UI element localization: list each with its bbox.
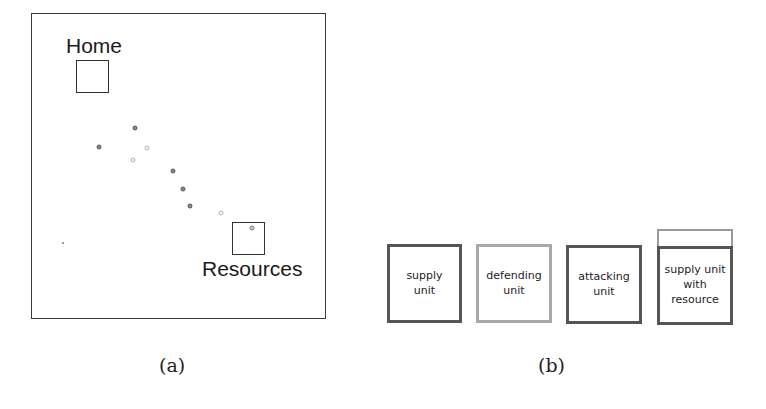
stray-speck (62, 242, 64, 244)
unit-dot (97, 145, 102, 150)
unit-dot (219, 211, 224, 216)
unit-dot (171, 169, 176, 174)
legend-defending-unit: defendingunit (476, 244, 552, 323)
resources-label: Resources (202, 258, 302, 279)
legend-supply-unit-with-resource: supply unitwithresource (657, 246, 733, 325)
legend-attacking-unit: attackingunit (566, 245, 642, 324)
unit-dot (181, 187, 186, 192)
caption-a: (a) (159, 356, 185, 375)
unit-dot (133, 126, 138, 131)
resources-box (232, 222, 265, 255)
home-label: Home (66, 35, 122, 56)
legend-label-attacking: attackingunit (578, 270, 630, 300)
legend-label-supply-with-resource: supply unitwithresource (664, 263, 725, 308)
legend-supply-unit: supplyunit (387, 244, 462, 323)
unit-dot (145, 146, 150, 151)
unit-dot (188, 204, 193, 209)
unit-dot (250, 226, 255, 231)
home-box (76, 60, 109, 93)
caption-b: (b) (538, 356, 565, 375)
legend-label-defending: defendingunit (486, 269, 541, 299)
unit-dot (131, 158, 136, 163)
legend-label-supply: supplyunit (406, 269, 442, 299)
